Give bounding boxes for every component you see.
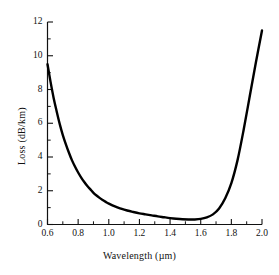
y-tick-label: 10 [14, 51, 43, 61]
x-tick-label: 0.6 [32, 229, 64, 239]
y-tick-label: 12 [14, 17, 43, 27]
y-tick-label: 2 [14, 186, 43, 196]
x-tick-label: 1.4 [154, 229, 186, 239]
x-tick-label: 1.6 [185, 229, 217, 239]
x-tick-label: 1.8 [215, 229, 247, 239]
axis-lines [47, 22, 262, 225]
x-axis-ticks [48, 219, 263, 225]
y-tick-label: 8 [14, 85, 43, 95]
y-axis-title: Loss (dB/km) [16, 107, 27, 165]
x-tick-label: 2.0 [246, 229, 278, 239]
x-tick-label: 0.8 [62, 229, 94, 239]
fiber-loss-chart: 0.60.81.01.21.41.61.82.0 024681012 Wavel… [0, 0, 279, 275]
y-tick-label: 0 [14, 220, 43, 230]
y-axis-ticks [48, 22, 54, 225]
x-tick-label: 1.2 [123, 229, 155, 239]
loss-curve [48, 30, 263, 219]
x-tick-label: 1.0 [93, 229, 125, 239]
x-axis-title: Wavelength (µm) [0, 250, 279, 261]
